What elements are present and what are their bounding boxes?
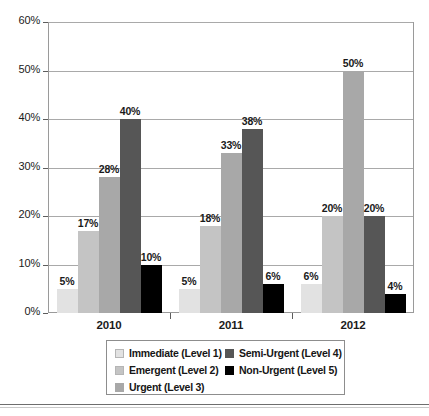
y-axis-tickmark-0 (43, 313, 48, 314)
bar-group-2011: 5%18%33%38%6% (170, 22, 292, 313)
bar[interactable] (99, 177, 120, 313)
x-axis-label-2012: 2012 (292, 319, 414, 331)
bar[interactable] (322, 216, 343, 313)
x-axis-label-2011: 2011 (170, 319, 292, 331)
bar-chart-figure: 0%10%20%30%40%50%60% 5%17%28%40%10%5%18%… (0, 0, 429, 416)
legend-swatch-icon (225, 349, 234, 358)
y-axis-label-50: 50% (19, 63, 40, 75)
legend-swatch-icon (225, 366, 234, 375)
legend-item[interactable]: Emergent (Level 2) (115, 362, 222, 378)
bar-value-label: 4% (388, 280, 403, 292)
bar[interactable] (78, 231, 99, 313)
y-axis-label-40: 40% (19, 111, 40, 123)
bar[interactable] (242, 129, 263, 313)
bar-value-label: 20% (364, 202, 384, 214)
bar[interactable] (343, 71, 364, 314)
legend-swatch-icon (115, 383, 124, 392)
bar-group-2012: 6%20%50%20%4% (292, 22, 414, 313)
bar-value-label: 6% (266, 270, 281, 282)
bar-value-label: 20% (322, 202, 342, 214)
legend-label: Urgent (Level 3) (129, 381, 204, 393)
legend-swatch-icon (115, 366, 124, 375)
bar[interactable] (120, 119, 141, 313)
bar[interactable] (301, 284, 322, 313)
y-axis-label-30: 30% (19, 160, 40, 172)
bar-value-label: 17% (78, 217, 98, 229)
y-axis-label-10: 10% (19, 257, 40, 269)
x-axis-label-2010: 2010 (48, 319, 170, 331)
chart-legend: Immediate (Level 1)Emergent (Level 2)Urg… (106, 340, 345, 395)
legend-swatch-icon (115, 349, 124, 358)
legend-label: Non-Urgent (Level 5) (239, 364, 337, 376)
bar-value-label: 40% (120, 105, 140, 117)
legend-item[interactable]: Urgent (Level 3) (115, 379, 222, 395)
bar[interactable] (57, 289, 78, 313)
legend-item[interactable]: Non-Urgent (Level 5) (225, 362, 342, 378)
bar-value-label: 10% (141, 251, 161, 263)
legend-column-left: Immediate (Level 1)Emergent (Level 2)Urg… (115, 345, 222, 396)
legend-column-right: Semi-Urgent (Level 4)Non-Urgent (Level 5… (225, 345, 342, 379)
bars-layer: 5%17%28%40%10%5%18%33%38%6%6%20%50%20%4% (48, 22, 414, 313)
bar-value-label: 38% (242, 115, 262, 127)
y-axis-label-0: 0% (25, 305, 41, 317)
footer-divider (0, 404, 429, 405)
y-axis-label-20: 20% (19, 208, 40, 220)
y-axis-label-60: 60% (19, 14, 40, 26)
bar-value-label: 28% (99, 163, 119, 175)
bar[interactable] (364, 216, 385, 313)
legend-item[interactable]: Immediate (Level 1) (115, 345, 222, 361)
bar[interactable] (221, 153, 242, 313)
footer-divider-secondary (0, 407, 429, 408)
bar-value-label: 5% (60, 275, 75, 287)
legend-label: Emergent (Level 2) (129, 364, 218, 376)
bar[interactable] (200, 226, 221, 313)
bar-value-label: 18% (200, 212, 220, 224)
bar-group-2010: 5%17%28%40%10% (48, 22, 170, 313)
legend-label: Semi-Urgent (Level 4) (239, 347, 342, 359)
legend-label: Immediate (Level 1) (129, 347, 222, 359)
bar-value-label: 33% (221, 139, 241, 151)
bar[interactable] (263, 284, 284, 313)
bar[interactable] (385, 294, 406, 313)
bar[interactable] (141, 265, 162, 314)
bar-value-label: 6% (304, 270, 319, 282)
legend-item[interactable]: Semi-Urgent (Level 4) (225, 345, 342, 361)
bar-value-label: 5% (182, 275, 197, 287)
bar[interactable] (179, 289, 200, 313)
bar-value-label: 50% (343, 57, 363, 69)
